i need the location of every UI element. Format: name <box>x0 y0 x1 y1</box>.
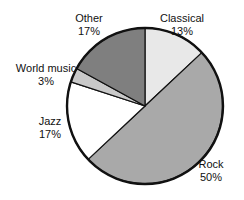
pie-label-rock: Rock 50% <box>186 158 236 183</box>
pie-label-jazz-value: 17% <box>22 128 78 141</box>
pie-label-jazz-name: Jazz <box>22 115 78 128</box>
pie-label-classical-name: Classical <box>144 12 220 25</box>
pie-label-rock-value: 50% <box>186 171 236 184</box>
pie-label-classical-value: 13% <box>144 25 220 38</box>
pie-label-classical: Classical 13% <box>144 12 220 37</box>
pie-label-other: Other 17% <box>58 12 120 37</box>
pie-label-rock-name: Rock <box>186 158 236 171</box>
pie-label-other-value: 17% <box>58 25 120 38</box>
pie-chart: Other 17% Classical 13% World music 3% J… <box>0 0 244 200</box>
pie-label-world-music-name: World music <box>2 62 90 75</box>
pie-label-world-music: World music 3% <box>2 62 90 87</box>
pie-label-world-music-value: 3% <box>2 75 90 88</box>
pie-label-jazz: Jazz 17% <box>22 115 78 140</box>
pie-label-other-name: Other <box>58 12 120 25</box>
